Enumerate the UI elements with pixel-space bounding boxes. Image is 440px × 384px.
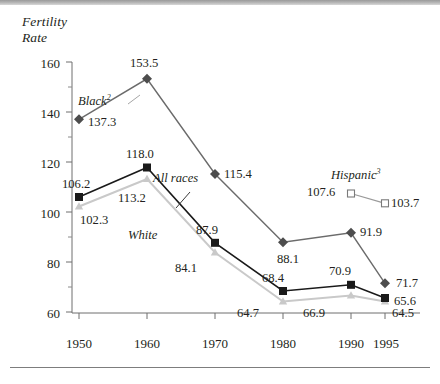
bottom-divider-rule <box>10 367 430 368</box>
value-label-all-1970: 87.9 <box>196 224 218 237</box>
all-races-leader-line <box>176 192 190 208</box>
value-label-hispanic-1990: 107.6 <box>307 186 335 199</box>
value-label-white-1995: 64.5 <box>392 307 414 320</box>
value-label-all-1950: 106.2 <box>62 178 90 191</box>
plot-area <box>0 0 440 384</box>
value-label-all-1960: 118.0 <box>126 148 154 161</box>
series-label-all-races: All races <box>153 172 198 185</box>
value-label-white-1970: 84.1 <box>175 262 197 275</box>
value-label-all-1990: 70.9 <box>329 265 351 278</box>
series-label-white: White <box>128 229 157 242</box>
x-ticks <box>79 313 385 319</box>
value-label-black-1960: 153.5 <box>130 57 158 70</box>
value-label-black-1970: 115.4 <box>224 168 252 181</box>
value-label-white-1950: 102.3 <box>80 214 108 227</box>
x-tick-1995: 1995 <box>356 337 416 350</box>
value-label-all-1980: 68.4 <box>262 272 284 285</box>
value-label-white-1960: 113.2 <box>118 192 146 205</box>
black-leader-line <box>128 95 140 104</box>
series-label-hispanic: Hispanic3 <box>331 166 380 182</box>
value-label-black-1995: 71.7 <box>396 277 418 290</box>
series-markers-all-races <box>75 164 389 303</box>
series-label-black: Black2 <box>78 92 111 108</box>
value-label-hispanic-1995: 103.7 <box>391 197 419 210</box>
value-label-black-1950: 137.3 <box>88 116 116 129</box>
x-tick-1980: 1980 <box>253 337 313 350</box>
value-label-white-1980: 64.7 <box>237 307 259 320</box>
value-label-black-1990: 91.9 <box>360 226 382 239</box>
value-label-white-1990: 66.9 <box>303 307 325 320</box>
x-tick-1970: 1970 <box>185 337 245 350</box>
x-tick-1950: 1950 <box>49 337 109 350</box>
value-label-black-1980: 88.1 <box>277 253 299 266</box>
series-line-hispanic <box>351 194 385 204</box>
x-tick-1960: 1960 <box>117 337 177 350</box>
fertility-rate-line-chart: Fertility Rate 160 140 120 100 80 60 <box>0 0 440 384</box>
